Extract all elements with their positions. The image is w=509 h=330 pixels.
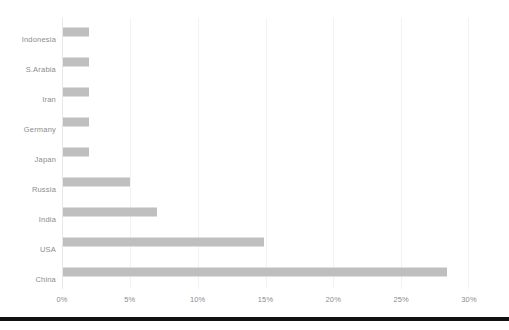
xtick-label-10: 10% xyxy=(190,296,206,304)
bar-row xyxy=(62,229,469,256)
bar-usa[interactable] xyxy=(62,238,264,247)
bar-s-arabia[interactable] xyxy=(62,57,89,66)
plot-area xyxy=(62,18,469,289)
category-axis-line xyxy=(62,18,63,289)
category-label-russia: Russia xyxy=(32,186,56,194)
bar-china[interactable] xyxy=(62,268,447,277)
category-label-iran: Iran xyxy=(42,96,56,104)
bar-row xyxy=(62,48,469,75)
xtick-label-5: 5% xyxy=(124,296,135,304)
category-label-s-arabia: S.Arabia xyxy=(26,66,56,74)
bar-row xyxy=(62,138,469,165)
bar-indonesia[interactable] xyxy=(62,27,89,36)
bar-russia[interactable] xyxy=(62,178,130,187)
bar-row xyxy=(62,199,469,226)
category-label-india: India xyxy=(39,216,56,224)
bar-japan[interactable] xyxy=(62,147,89,156)
bar-germany[interactable] xyxy=(62,117,89,126)
xtick-label-20: 20% xyxy=(325,296,341,304)
bar-row xyxy=(62,169,469,196)
bar-india[interactable] xyxy=(62,208,157,217)
category-label-indonesia: Indonesia xyxy=(22,36,56,44)
category-label-germany: Germany xyxy=(24,126,56,134)
bottom-rule xyxy=(0,317,509,321)
bar-row xyxy=(62,78,469,105)
bar-row xyxy=(62,18,469,45)
category-label-japan: Japan xyxy=(35,156,56,164)
xtick-label-30: 30% xyxy=(461,296,477,304)
bar-chart: Indonesia S.Arabia Iran Germany Japan Ru… xyxy=(0,0,509,330)
bar-row xyxy=(62,259,469,286)
xtick-label-15: 15% xyxy=(258,296,274,304)
category-label-usa: USA xyxy=(40,246,56,254)
xtick-label-25: 25% xyxy=(393,296,409,304)
bar-row xyxy=(62,108,469,135)
bar-iran[interactable] xyxy=(62,87,89,96)
xtick-label-0: 0% xyxy=(56,296,67,304)
category-label-china: China xyxy=(35,276,56,284)
